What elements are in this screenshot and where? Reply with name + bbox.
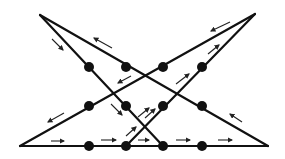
- dot-r3-c3: [158, 141, 168, 151]
- dot-r3-c2: [121, 141, 131, 151]
- dot-r1-c4: [197, 62, 207, 72]
- arrow-down-left-icon: [118, 76, 131, 83]
- top-right-to-bottom-left-line: [20, 14, 255, 146]
- dot-r2-c3: [158, 101, 168, 111]
- direction-arrows: [48, 22, 242, 141]
- dot-r1-c3: [158, 62, 168, 72]
- arrow-down-left-icon: [48, 113, 64, 122]
- arrow-up-right-icon: [126, 127, 136, 136]
- dot-r2-c2: [121, 101, 131, 111]
- puzzle-diagram: [0, 0, 285, 159]
- dot-r1-c2: [121, 62, 131, 72]
- dot-r1-c1: [84, 62, 94, 72]
- path-segments: [20, 14, 268, 146]
- arrow-up-left-icon: [230, 114, 242, 122]
- arrow-down-right-icon: [52, 39, 63, 50]
- dot-r3-c1: [84, 141, 94, 151]
- arrow-down-right-icon: [111, 104, 122, 115]
- dot-r3-c4: [197, 141, 207, 151]
- dot-r2-c1: [84, 101, 94, 111]
- dot-r2-c4: [197, 101, 207, 111]
